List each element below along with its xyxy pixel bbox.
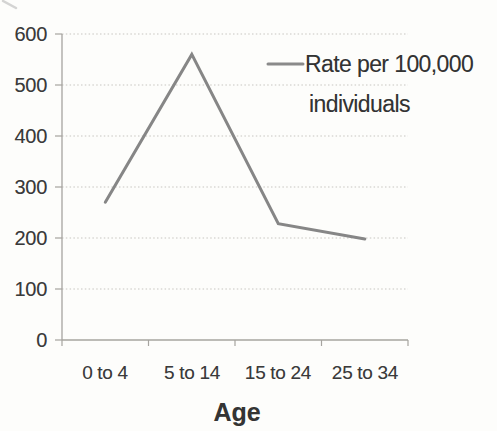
legend-label-line1: Rate per 100,000 xyxy=(305,51,473,77)
x-tick-label-5-to-14: 5 to 14 xyxy=(142,362,242,384)
y-tick-label-300: 300 xyxy=(0,175,47,199)
y-tick-label-600: 600 xyxy=(0,22,47,46)
line-chart-figure: 0 100 200 300 400 500 600 0 to 4 5 to 14… xyxy=(0,0,497,431)
photo-corner-artifact xyxy=(3,1,16,8)
series-line-rate-per-100000 xyxy=(105,54,365,239)
legend-label-line2: individuals xyxy=(309,91,410,117)
y-tick-label-500: 500 xyxy=(0,73,47,97)
y-tick-label-200: 200 xyxy=(0,226,47,250)
x-tick-label-0-to-4: 0 to 4 xyxy=(55,362,155,384)
x-tick-label-25-to-34: 25 to 34 xyxy=(315,362,415,384)
x-axis-title: Age xyxy=(187,398,287,426)
y-tick-label-100: 100 xyxy=(0,277,47,301)
y-tick-label-400: 400 xyxy=(0,124,47,148)
y-tick-label-0: 0 xyxy=(0,328,47,352)
x-tick-label-15-to-24: 15 to 24 xyxy=(228,362,328,384)
